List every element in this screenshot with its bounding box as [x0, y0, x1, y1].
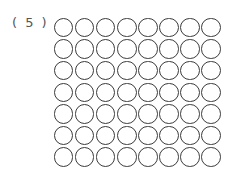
circle-icon: [96, 61, 116, 81]
circle-icon: [201, 39, 221, 59]
circle-icon: [75, 61, 95, 81]
circle-icon: [54, 147, 74, 167]
circle-icon: [96, 147, 116, 167]
circle-icon: [96, 18, 116, 38]
circle-icon: [117, 104, 137, 124]
circle-icon: [180, 18, 200, 38]
circle-icon: [159, 39, 179, 59]
circle-icon: [159, 147, 179, 167]
circle-icon: [75, 39, 95, 59]
circle-grid: [53, 17, 222, 168]
circle-icon: [75, 104, 95, 124]
circle-icon: [201, 147, 221, 167]
circle-icon: [138, 126, 158, 146]
circle-icon: [180, 39, 200, 59]
circle-icon: [54, 104, 74, 124]
circle-icon: [117, 61, 137, 81]
circle-icon: [96, 39, 116, 59]
circle-icon: [180, 147, 200, 167]
circle-icon: [54, 83, 74, 103]
circle-icon: [54, 39, 74, 59]
circle-icon: [180, 104, 200, 124]
circle-icon: [75, 126, 95, 146]
circle-icon: [117, 83, 137, 103]
circle-icon: [138, 104, 158, 124]
circle-icon: [159, 126, 179, 146]
circle-icon: [159, 104, 179, 124]
problem-number-label: ( 5 ): [12, 15, 49, 30]
circle-icon: [96, 126, 116, 146]
circle-icon: [180, 83, 200, 103]
circle-icon: [117, 126, 137, 146]
circle-icon: [201, 18, 221, 38]
circle-icon: [54, 18, 74, 38]
circle-icon: [96, 104, 116, 124]
circle-icon: [138, 39, 158, 59]
circle-icon: [180, 126, 200, 146]
circle-icon: [201, 83, 221, 103]
circle-icon: [96, 83, 116, 103]
circle-icon: [54, 126, 74, 146]
circle-icon: [159, 83, 179, 103]
circle-icon: [117, 18, 137, 38]
circle-icon: [201, 104, 221, 124]
circle-icon: [138, 147, 158, 167]
circle-icon: [117, 147, 137, 167]
circle-icon: [180, 61, 200, 81]
circle-icon: [138, 18, 158, 38]
circle-icon: [138, 83, 158, 103]
circle-icon: [75, 83, 95, 103]
circle-icon: [117, 39, 137, 59]
circle-icon: [138, 61, 158, 81]
circle-icon: [75, 18, 95, 38]
circle-icon: [159, 61, 179, 81]
circle-icon: [201, 126, 221, 146]
circle-icon: [54, 61, 74, 81]
circle-icon: [159, 18, 179, 38]
circle-icon: [75, 147, 95, 167]
circle-icon: [201, 61, 221, 81]
